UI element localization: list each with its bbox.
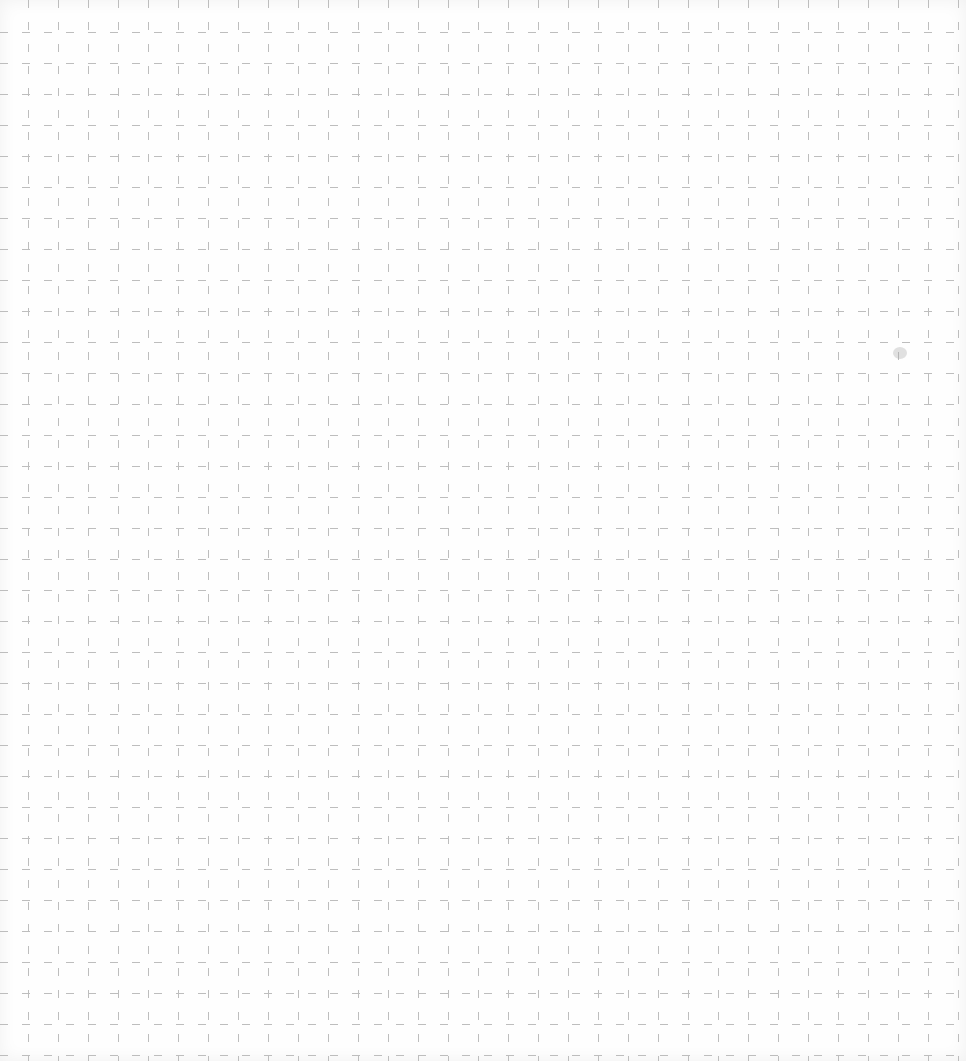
paper-smudge bbox=[893, 347, 907, 359]
grid-paper-sheet bbox=[0, 0, 966, 1061]
dashed-grid-lines bbox=[0, 0, 966, 1061]
